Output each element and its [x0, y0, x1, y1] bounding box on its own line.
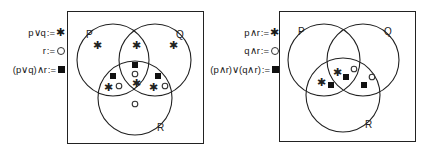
- asterisk-icon: ✱: [132, 77, 141, 89]
- square-icon: [155, 73, 161, 79]
- circle-icon: [369, 74, 375, 80]
- circle-icon: [132, 101, 138, 107]
- venn-figure-right: p∧r := ✱ q∧r := (p∧r)∨(q∧r) := P Q R ✱ ✱: [213, 0, 426, 151]
- venn-figure-left: p∨q := ✱ r := (p∨q)∧r := P Q R ✱ ✱ ✱ ✱ ✱: [0, 0, 213, 151]
- circle-icon: [132, 71, 138, 77]
- venn-diagram-right: P Q R ✱ ✱: [213, 0, 426, 151]
- set-label-q: Q: [384, 26, 392, 37]
- venn-diagram-left: P Q R ✱ ✱ ✱ ✱ ✱ ✱: [0, 0, 213, 151]
- asterisk-icon: ✱: [149, 81, 158, 93]
- circle-icon: [116, 83, 122, 89]
- asterisk-icon: ✱: [169, 39, 178, 51]
- set-label-p: P: [298, 26, 305, 37]
- set-label-r: R: [365, 119, 372, 130]
- square-icon: [328, 82, 334, 88]
- asterisk-icon: ✱: [317, 76, 326, 88]
- asterisk-icon: ✱: [104, 81, 113, 93]
- asterisk-icon: ✱: [93, 39, 102, 51]
- square-icon: [110, 73, 116, 79]
- square-icon: [132, 62, 138, 68]
- set-label-p: P: [86, 29, 93, 40]
- circle-icon: [162, 83, 168, 89]
- square-icon: [361, 82, 367, 88]
- asterisk-icon: ✱: [132, 39, 141, 51]
- asterisk-icon: ✱: [333, 66, 342, 78]
- square-icon: [343, 74, 349, 80]
- circle-icon: [351, 66, 357, 72]
- set-label-r: R: [157, 122, 164, 133]
